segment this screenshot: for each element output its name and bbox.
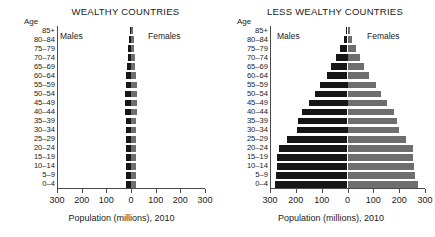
pyramid-row [57,118,205,125]
bar-female [348,91,382,98]
bar-female [348,127,400,134]
bar-male [315,91,347,98]
x-axis-tick-label: 200 [173,195,188,205]
x-axis-tick [180,189,181,193]
x-axis-tick-label: 100 [99,195,114,205]
pyramid-row [57,91,205,98]
age-axis-header-left: Age [24,17,38,26]
pyramid-row [270,63,425,70]
x-axis-tick-label: 300 [197,195,212,205]
pyramid-row [270,163,425,170]
x-axis-tick [57,189,58,193]
pyramid-row [270,172,425,179]
age-group-label: 65–69 [247,63,268,71]
age-group-label: 70–74 [34,54,55,62]
bar-female [131,36,134,43]
x-axis-tick [348,189,349,193]
pyramid-row [270,118,425,125]
x-axis-tick-label: 300 [417,195,432,205]
pyramid-row [57,36,205,43]
x-axis-tick [156,189,157,193]
age-group-label: 5–9 [255,171,268,179]
pyramid-row [270,45,425,52]
age-group-label: 5–9 [42,171,55,179]
pyramid-row [270,82,425,89]
x-axis-tick [425,189,426,193]
age-group-label: 75–79 [34,45,55,53]
x-axis-tick-label: 100 [314,195,329,205]
bar-rows-right [270,26,425,189]
pyramid-row [57,145,205,152]
x-axis-tick-label: 0 [128,195,133,205]
pyramid-row [270,109,425,116]
bar-female [348,82,377,89]
age-group-label: 65–69 [34,63,55,71]
bar-female [131,45,134,52]
age-group-label: 85+ [42,27,55,35]
bar-male [298,118,347,125]
age-group-label: 0–4 [255,180,268,188]
age-group-label: 55–59 [247,81,268,89]
bar-male [331,63,347,70]
x-axis-tick [106,189,107,193]
x-ticks-left: 3002001000100200300 [57,189,205,193]
age-group-label: 45–49 [247,99,268,107]
age-group-label: 30–34 [34,126,55,134]
bar-male [279,145,347,152]
x-axis-tick [82,189,83,193]
bar-female [131,118,136,125]
bar-female [131,127,136,134]
bar-female [131,181,136,188]
plot-area-left: 3002001000100200300 [57,26,205,189]
x-axis-tick-label: 0 [345,195,350,205]
x-axis-tick-label: 300 [49,195,64,205]
figure-root: WEALTHY COUNTRIES Age Males Females 85+8… [0,0,435,237]
pyramid-row [270,145,425,152]
age-group-label: 45–49 [34,99,55,107]
age-group-label: 35–39 [247,117,268,125]
bar-male [327,72,348,79]
x-axis-tick-label: 100 [366,195,381,205]
bar-female [131,91,137,98]
age-axis-header-right: Age [237,17,251,26]
age-group-label: 35–39 [34,117,55,125]
age-group-label: 40–44 [247,108,268,116]
plot-area-right: 3002001000100200300 [270,26,425,189]
bar-female [348,100,387,107]
pyramid-row [57,127,205,134]
x-axis-tick-label: 300 [262,195,277,205]
bar-female [131,100,137,107]
x-axis-caption-right: Population (millions), 2010 [215,213,435,223]
bar-female [131,54,135,61]
x-axis-tick [205,189,206,193]
bar-female [348,54,360,61]
bar-rows-left [57,26,205,189]
bar-female [348,136,407,143]
bar-male [276,172,348,179]
chart-panel-wealthy: WEALTHY COUNTRIES Age Males Females 85+8… [0,0,215,237]
pyramid-row [57,27,205,34]
x-axis-tick [373,189,374,193]
x-axis-tick [399,189,400,193]
age-group-label: 50–54 [34,90,55,98]
bar-male [287,136,348,143]
age-group-label: 25–29 [34,135,55,143]
bar-male [320,82,347,89]
bar-female [348,172,416,179]
pyramid-row [57,136,205,143]
pyramid-row [57,109,205,116]
bar-female [131,63,135,70]
bar-male [297,127,347,134]
bar-female [348,181,418,188]
bar-male [340,45,347,52]
pyramid-row [270,27,425,34]
pyramid-row [57,181,205,188]
bar-male [277,154,347,161]
x-axis-tick-label: 200 [288,195,303,205]
bar-female [131,145,136,152]
age-group-label: 85+ [255,27,268,35]
age-group-label: 80–84 [247,36,268,44]
pyramid-row [270,100,425,107]
age-group-label: 50–54 [247,90,268,98]
x-axis-caption-left: Population (millions), 2010 [0,213,229,223]
